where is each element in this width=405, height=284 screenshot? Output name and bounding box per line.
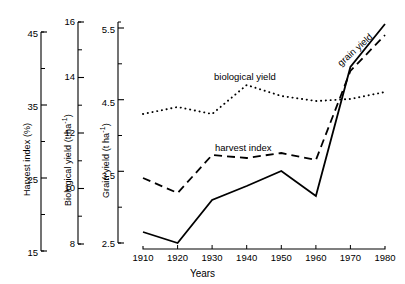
axis-spine-grain-yield [118,22,124,243]
axis-spine-harvest-index [41,32,47,251]
plot-svg [0,0,405,284]
axis-spine-years [143,245,385,249]
xtick-1960: 1960 [298,252,334,263]
series-label-biological-yield: biological yield [214,71,276,82]
xtick-1970: 1970 [332,252,368,263]
xtick-1980: 1980 [367,252,403,263]
series-biological-yield [143,85,385,114]
series-label-harvest-index: harvest index [215,142,272,153]
figure-container: Harvest index (%) 45 35 25 15 Biological… [0,0,405,284]
axis-title-years: Years [0,268,405,279]
xtick-1940: 1940 [229,252,265,263]
xtick-1910: 1910 [125,252,161,263]
xtick-1930: 1930 [194,252,230,263]
axis-spine-biological-yield [78,22,84,244]
xtick-1950: 1950 [263,252,299,263]
xtick-1920: 1920 [160,252,196,263]
